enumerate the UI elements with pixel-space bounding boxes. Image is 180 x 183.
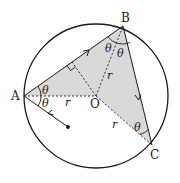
label-r-oc: r <box>112 118 118 131</box>
label-point-a: A <box>10 89 20 103</box>
label-r-oa: r <box>65 96 71 109</box>
label-point-c: C <box>150 148 159 162</box>
label-point-o: O <box>90 97 100 111</box>
label-theta-c: θ <box>134 121 141 134</box>
label-theta-a-lower: θ <box>42 97 49 110</box>
source-dot <box>66 125 70 129</box>
label-theta-b-right: θ <box>117 47 124 60</box>
reflection-diagram: A B C O θ θ θ θ θ r r r <box>0 0 180 183</box>
label-theta-a-upper: θ <box>42 84 49 97</box>
label-r-ob: r <box>107 69 113 82</box>
arrow-icon-incoming <box>48 110 54 115</box>
label-point-b: B <box>121 11 130 25</box>
label-theta-b-left: θ <box>105 42 112 55</box>
